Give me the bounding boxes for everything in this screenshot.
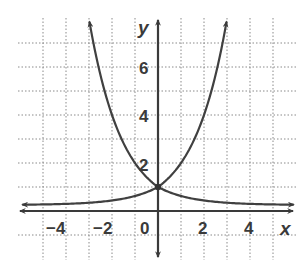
x-tick-label: 2 [198,219,207,238]
exponential-graph: y x −4 −2 0 2 4 2 4 6 [0,0,305,260]
curve-2-pow-x [22,22,226,205]
x-axis-label: x [279,218,292,239]
x-tick-label: 0 [140,219,149,238]
y-axis-label: y [137,17,150,38]
x-tick-label: −4 [46,219,66,238]
y-tick-label: 2 [139,156,148,175]
curve-half-pow-x [89,22,293,205]
y-tick-label: 6 [139,59,148,78]
intersection-point [155,184,161,190]
x-tick-label: 4 [244,219,254,238]
x-tick-label: −2 [93,219,112,238]
y-tick-label: 4 [139,107,149,126]
